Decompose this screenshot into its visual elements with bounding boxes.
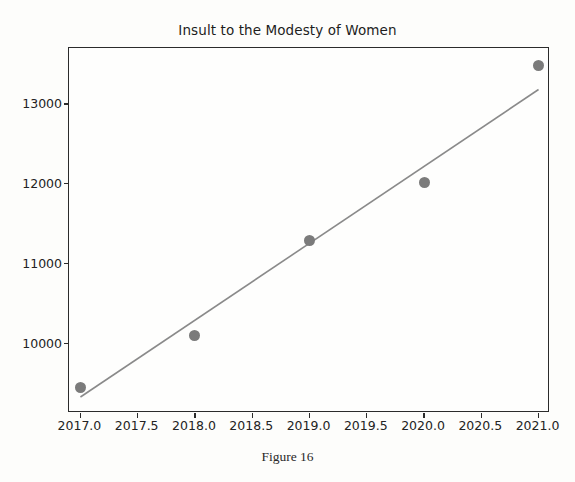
figure-container: Insult to the Modesty of Women 100001100… xyxy=(0,0,575,482)
data-point xyxy=(304,235,315,246)
x-axis-tick-label: 2017.0 xyxy=(58,418,102,433)
y-axis-tick-mark xyxy=(64,343,69,344)
x-axis-tick-label: 2020.5 xyxy=(458,418,502,433)
y-axis-tick-labels: 10000110001200013000 xyxy=(0,0,62,482)
y-axis-tick-label: 11000 xyxy=(22,255,62,270)
y-axis-tick-mark xyxy=(64,183,69,184)
x-axis-tick-label: 2020.0 xyxy=(401,418,445,433)
x-axis-tick-label: 2019.5 xyxy=(344,418,388,433)
figure-caption: Figure 16 xyxy=(0,449,575,465)
x-axis-tick-label: 2017.5 xyxy=(115,418,159,433)
data-point xyxy=(75,382,86,393)
x-axis-tick-label: 2019.0 xyxy=(287,418,331,433)
trend-line xyxy=(69,48,548,411)
x-axis-tick-label: 2018.5 xyxy=(229,418,273,433)
x-axis-tick-label: 2018.0 xyxy=(172,418,216,433)
y-axis-tick-label: 13000 xyxy=(22,95,62,110)
chart-title: Insult to the Modesty of Women xyxy=(0,22,575,38)
plot-area xyxy=(68,47,549,412)
x-axis-tick-label: 2021.0 xyxy=(516,418,560,433)
data-point xyxy=(419,177,430,188)
y-axis-tick-mark xyxy=(64,103,69,104)
y-axis-tick-label: 12000 xyxy=(22,175,62,190)
y-axis-tick-mark xyxy=(64,263,69,264)
y-axis-tick-label: 10000 xyxy=(22,335,62,350)
